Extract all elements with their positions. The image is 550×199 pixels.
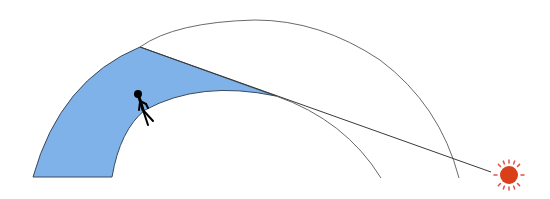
shaded-region — [33, 47, 276, 177]
outer-arc — [140, 20, 459, 178]
inner-arc — [276, 96, 381, 178]
sun-icon — [494, 160, 524, 190]
tangent-ray — [140, 47, 491, 172]
diagram-canvas — [0, 0, 550, 199]
